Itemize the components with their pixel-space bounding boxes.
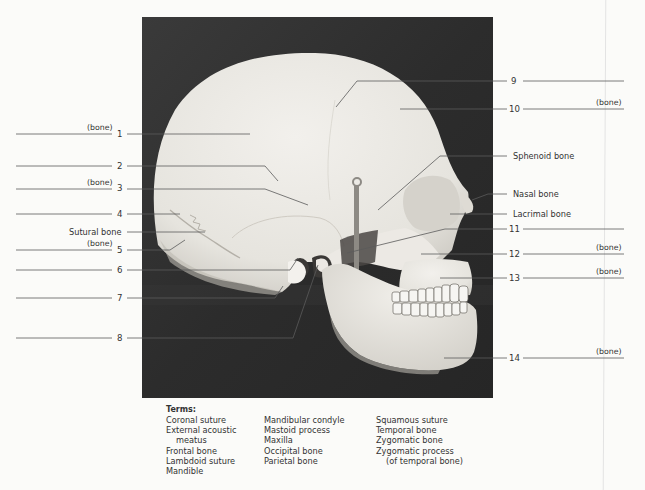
label-sphenoid-bone: Sphenoid bone (513, 151, 574, 161)
label-9-number: 9 (511, 76, 516, 86)
terms-heading: Terms: (166, 405, 196, 415)
term: Mandible (166, 466, 281, 476)
terms-column-3: Squamous suture Temporal bone Zygomatic … (376, 415, 491, 466)
label-nasal-bone: Nasal bone (513, 189, 559, 199)
label-5-number: 5 (117, 245, 122, 255)
label-1-number: 1 (117, 129, 122, 139)
label-8-number: 8 (117, 333, 122, 343)
label-14-bone-suffix: (bone) (596, 347, 622, 357)
label-3-bone-suffix: (bone) (87, 178, 113, 188)
label-1-bone-suffix: (bone) (87, 123, 113, 133)
label-7-number: 7 (117, 293, 122, 303)
label-3-number: 3 (117, 183, 122, 193)
label-12-bone-suffix: (bone) (596, 243, 622, 253)
label-14-number: 14 (509, 353, 520, 363)
label-10-bone-suffix: (bone) (596, 98, 622, 108)
term: Zygomatic process (376, 446, 491, 456)
label-2-number: 2 (117, 161, 122, 171)
label-lacrimal-bone: Lacrimal bone (513, 209, 571, 219)
term: Parietal bone (264, 456, 379, 466)
skull-diagram: (bone) 1 2 (bone) 3 4 Sutural bone (bone… (0, 0, 645, 490)
term: Mastoid process (264, 425, 379, 435)
label-6-number: 6 (117, 265, 122, 275)
term: Mandibular condyle (264, 415, 379, 425)
term: Maxilla (264, 435, 379, 445)
term: Zygomatic bone (376, 435, 491, 445)
label-4-number: 4 (117, 209, 122, 219)
label-13-bone-suffix: (bone) (596, 267, 622, 277)
label-12-number: 12 (509, 249, 520, 259)
term: Temporal bone (376, 425, 491, 435)
label-10-number: 10 (509, 104, 520, 114)
term: (of temporal bone) (376, 456, 491, 466)
label-5-bone-suffix: (bone) (87, 239, 113, 249)
label-13-number: 13 (509, 273, 520, 283)
terms-list: Terms: Coronal suture External acoustic … (166, 405, 196, 415)
label-11-number: 11 (509, 224, 520, 234)
terms-column-2: Mandibular condyle Mastoid process Maxil… (264, 415, 379, 466)
term: Squamous suture (376, 415, 491, 425)
label-sutural-bone: Sutural bone (69, 227, 121, 237)
term: Occipital bone (264, 446, 379, 456)
